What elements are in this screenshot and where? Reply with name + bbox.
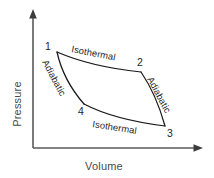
arrow-up-icon [29, 9, 37, 19]
state-label-2: 2 [137, 56, 143, 68]
carnot-cycle-svg: Pressure Volume Isothermal Adiabatic Iso… [0, 0, 214, 178]
y-axis-label: Pressure [11, 81, 23, 127]
state-label-3: 3 [167, 127, 173, 139]
state-label-4: 4 [78, 105, 84, 117]
state-label-1: 1 [45, 40, 51, 52]
process-label-adiabatic-4-1: Adiabatic [40, 58, 68, 98]
pv-diagram-figure: Pressure Volume Isothermal Adiabatic Iso… [0, 0, 214, 178]
x-axis-label: Volume [85, 160, 123, 172]
arrow-right-icon [194, 144, 204, 152]
